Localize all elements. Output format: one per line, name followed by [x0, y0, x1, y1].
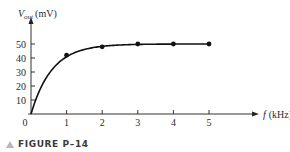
- figure-caption: FIGURE P–14: [6, 138, 89, 150]
- y-axis: 1020304050: [16, 17, 35, 114]
- y-tick-label: 20: [16, 81, 26, 92]
- chart: 1020304050 012345 Vout(mV) f(kHz): [0, 0, 290, 130]
- x-tick-label: 3: [135, 117, 140, 128]
- data-curve: [31, 44, 209, 114]
- chart-plot: 1020304050 012345 Vout(mV) f(kHz): [0, 0, 290, 130]
- y-tick-label: 50: [16, 39, 26, 50]
- x-tick-label: 0: [23, 117, 28, 128]
- data-point: [171, 42, 176, 47]
- x-axis: 012345: [23, 110, 260, 128]
- triangle-icon: [6, 141, 14, 148]
- x-axis-arrow-icon: [252, 112, 259, 117]
- x-tick-label: 2: [100, 117, 105, 128]
- y-tick-label: 40: [16, 53, 26, 64]
- y-tick-label: 10: [16, 95, 26, 106]
- caption-label: FIGURE P–14: [18, 139, 89, 149]
- x-tick-label: 5: [207, 117, 212, 128]
- x-tick-label: 4: [171, 117, 176, 128]
- data-point: [207, 42, 212, 47]
- x-tick-label: 1: [64, 117, 69, 128]
- data-point: [64, 53, 69, 58]
- data-point: [100, 44, 105, 49]
- y-tick-label: 30: [16, 67, 26, 78]
- data-point: [135, 42, 140, 47]
- y-axis-label: Vout(mV): [18, 8, 57, 21]
- x-axis-label: f(kHz): [263, 109, 290, 121]
